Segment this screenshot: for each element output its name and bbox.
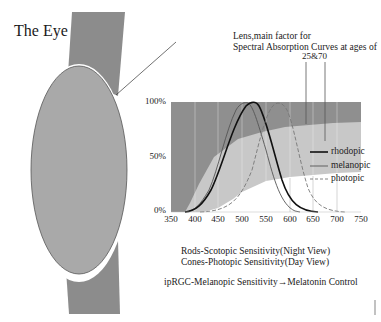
chart-plot-area [171, 62, 361, 212]
lens-callout: Lens,main factor for Spectral Absorption… [233, 31, 377, 53]
caption-iprgc: ipRGC-Melanopic Sensitivity→Melatonin Co… [164, 277, 358, 287]
legend-rhodopic-label: rhodopic [331, 146, 365, 156]
callout-underline [176, 34, 232, 42]
y-tick-50: 50% [138, 151, 166, 161]
caption-cones: Cones-Photopic Sensitivity(Day View) [181, 257, 329, 267]
x-tick-700: 700 [325, 214, 349, 224]
ages-label: 25&70 [302, 51, 327, 61]
x-tick-750: 750 [349, 214, 373, 224]
x-tick-400: 400 [183, 214, 207, 224]
callout-line [116, 42, 176, 95]
x-tick-550: 550 [254, 214, 278, 224]
callout-line-1: Lens,main factor for [233, 31, 377, 42]
x-tick-450: 450 [206, 214, 230, 224]
legend-photopic-label: photopic [331, 173, 364, 183]
x-tick-650: 650 [301, 214, 325, 224]
caption-rods: Rods-Scotopic Sensitivity(Night View) [181, 246, 330, 256]
x-tick-350: 350 [159, 214, 183, 224]
y-tick-100: 100% [138, 96, 166, 106]
x-tick-600: 600 [278, 214, 302, 224]
x-tick-500: 500 [230, 214, 254, 224]
eyeball [31, 66, 127, 274]
legend-melanopic-label: melanopic [331, 160, 371, 170]
page-title: The Eye [14, 22, 68, 40]
